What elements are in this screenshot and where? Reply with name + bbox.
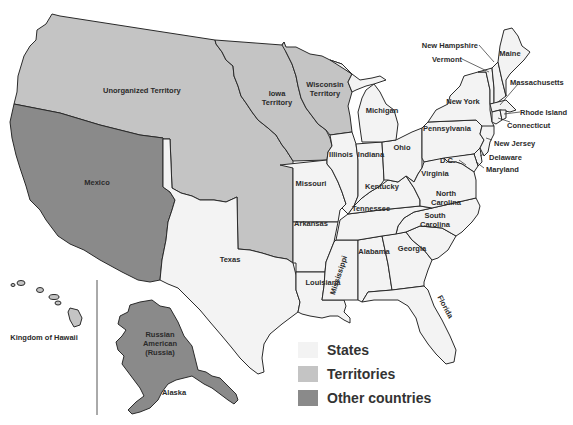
legend-swatch-territories: [298, 366, 318, 382]
map-legend: States Territories Other countries: [298, 338, 431, 410]
label-alabama: Alabama: [358, 247, 390, 256]
label-virginia: Virginia: [421, 169, 449, 178]
legend-label-other-countries: Other countries: [327, 390, 431, 406]
label-kingdom-of-hawaii: Kingdom of Hawaii: [10, 333, 78, 342]
label-pennsylvania: Pennsylvania: [423, 124, 472, 133]
label-texas: Texas: [220, 255, 241, 264]
label-alaska: Alaska: [162, 388, 187, 397]
label-north-carolina-1: North: [436, 189, 456, 198]
label-unorganized-territory: Unorganized Territory: [103, 86, 182, 95]
legend-label-states: States: [327, 342, 369, 358]
label-rhode-island: Rhode Island: [520, 108, 568, 117]
label-russia-2: American: [143, 339, 178, 348]
us-map-1840s: Unorganized Territory Iowa Territory Wis…: [0, 0, 573, 425]
label-arkansas: Arkansas: [294, 219, 328, 228]
label-north-carolina-2: Carolina: [431, 198, 462, 207]
label-iowa-2: Territory: [262, 98, 293, 107]
label-indiana: Indiana: [358, 150, 385, 159]
label-dc: D.C.: [440, 156, 455, 165]
legend-item-other-countries: Other countries: [298, 386, 431, 410]
label-south-carolina-2: Carolina: [420, 220, 451, 229]
label-maine: Maine: [499, 49, 520, 58]
label-vermont: Vermont: [432, 55, 463, 64]
label-georgia: Georgia: [398, 244, 427, 253]
label-iowa-1: Iowa: [269, 89, 286, 98]
legend-item-states: States: [298, 338, 431, 362]
legend-swatch-other-countries: [298, 390, 318, 406]
label-michigan: Michigan: [366, 106, 399, 115]
legend-swatch-states: [298, 342, 318, 358]
legend-label-territories: Territories: [327, 366, 395, 382]
legend-item-territories: Territories: [298, 362, 431, 386]
label-illinois: Illinois: [329, 150, 353, 159]
label-connecticut: Connecticut: [507, 121, 551, 130]
label-tennessee: Tennessee: [352, 204, 390, 213]
label-massachusetts: Massachusetts: [510, 78, 564, 87]
label-ohio: Ohio: [393, 143, 410, 152]
label-new-hampshire: New Hampshire: [422, 41, 478, 50]
label-new-york: New York: [446, 97, 480, 106]
label-delaware: Delaware: [489, 153, 522, 162]
label-missouri: Missouri: [296, 179, 327, 188]
label-new-jersey: New Jersey: [494, 139, 536, 148]
label-kentucky: Kentucky: [365, 182, 400, 191]
label-russia-3: (Russia): [145, 348, 175, 357]
label-mexico: Mexico: [84, 178, 110, 187]
label-wisconsin-1: Wisconsin: [306, 80, 344, 89]
label-maryland: Maryland: [486, 165, 519, 174]
hawaii-islands: [11, 281, 82, 328]
label-wisconsin-2: Territory: [310, 89, 341, 98]
label-south-carolina-1: South: [424, 211, 446, 220]
label-russia-1: Russian: [145, 330, 175, 339]
